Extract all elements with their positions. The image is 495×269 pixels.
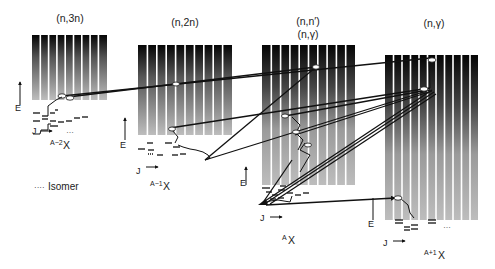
- energy-axis-a: E: [240, 167, 246, 188]
- svg-text:A+1: A+1: [424, 249, 437, 256]
- energy-axis-a-minus-1: E: [120, 118, 126, 150]
- spin-axis-a-minus-2: J: [32, 126, 52, 136]
- svg-text:X: X: [438, 249, 445, 261]
- continuum-block-ngamma: [385, 55, 478, 220]
- isomer-label: Isomer: [48, 181, 79, 192]
- continuum-block-n2n: [138, 45, 232, 135]
- levels-a-minus-1: [138, 143, 210, 160]
- transition-lines: [62, 58, 436, 205]
- ellipsis-a-minus-2: …: [66, 126, 74, 135]
- energy-axis-a-plus-1: E: [368, 198, 374, 229]
- svg-text:A: A: [282, 234, 287, 241]
- svg-text:J: J: [32, 126, 37, 136]
- svg-text:J: J: [383, 238, 388, 248]
- svg-text:X: X: [63, 139, 70, 151]
- entry-state-markers: [58, 58, 436, 200]
- svg-text:A−1: A−1: [150, 180, 163, 187]
- reaction-level-diagram: (n,3n) (n,2n) (n,n′) (n,γ) (n,γ): [0, 0, 495, 269]
- ellipsis-a-plus-1: …: [443, 221, 451, 230]
- svg-text:X: X: [288, 234, 295, 246]
- spin-axis-a: J: [260, 213, 282, 223]
- svg-text:J: J: [136, 166, 141, 176]
- nuclide-label-a: A X: [282, 234, 295, 246]
- spin-axis-a-plus-1: J: [383, 238, 405, 248]
- svg-text:E: E: [368, 219, 374, 229]
- levels-a: [262, 186, 309, 204]
- svg-text:J: J: [260, 213, 265, 223]
- nuclide-label-a-plus-1: A+1 X: [424, 249, 445, 261]
- nuclide-label-a-minus-2: A−2 X: [50, 139, 70, 151]
- spin-axis-a-minus-1: J: [136, 166, 158, 176]
- svg-text:E: E: [240, 178, 246, 188]
- label-ngamma: (n,γ): [424, 17, 445, 29]
- label-n3n: (n,3n): [56, 12, 83, 24]
- label-n2n: (n,2n): [171, 16, 198, 28]
- svg-text:X: X: [163, 180, 170, 192]
- label-ngamma-competing: (n,γ): [298, 28, 319, 40]
- levels-a-minus-2: [33, 97, 88, 134]
- label-nnprime: (n,n′): [296, 15, 320, 27]
- svg-text:E: E: [120, 140, 126, 150]
- energy-axis-a-minus-2: E: [15, 82, 21, 113]
- isomer-marker: ····: [34, 183, 45, 192]
- nuclide-label-a-minus-1: A−1 X: [150, 180, 170, 192]
- legend-isomer: ···· Isomer: [34, 181, 79, 192]
- svg-text:E: E: [15, 103, 21, 113]
- continuum-block-n3n: [32, 35, 107, 100]
- continuum-block-nnprime: [262, 45, 355, 185]
- svg-text:A−2: A−2: [50, 139, 63, 146]
- levels-a-plus-1: [395, 220, 436, 230]
